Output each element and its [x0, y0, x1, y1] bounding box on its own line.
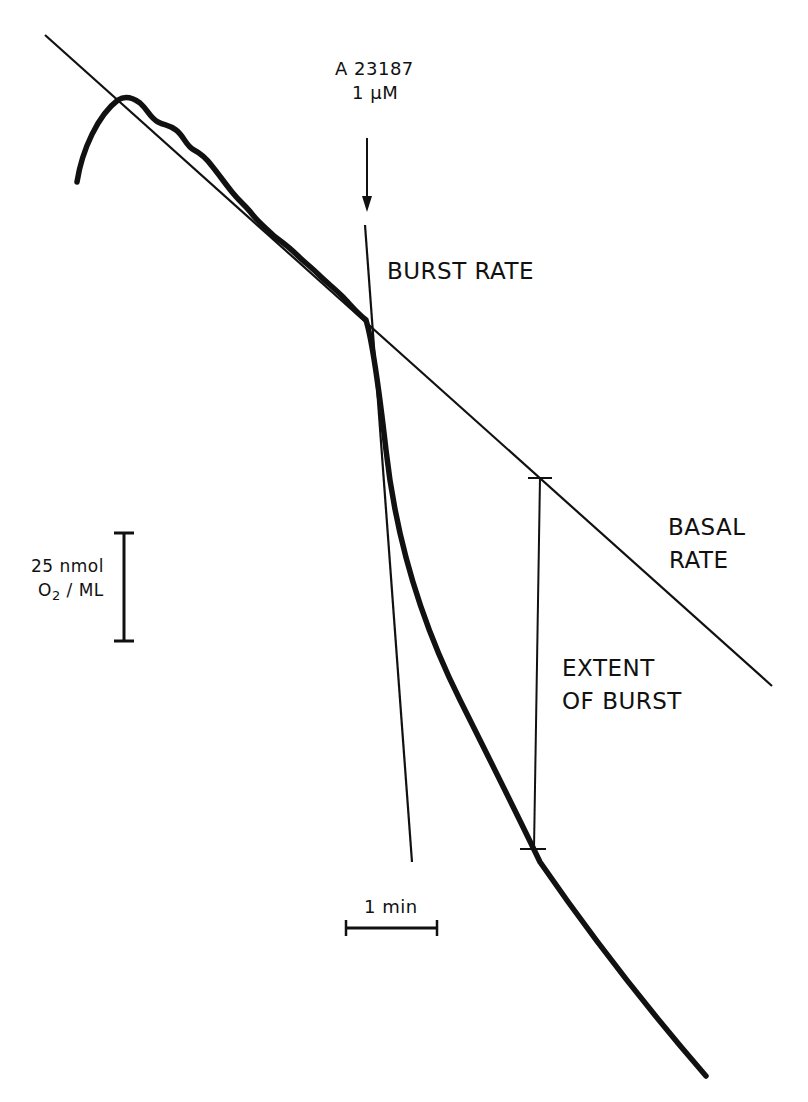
- basal-rate-line: [45, 35, 772, 686]
- o2-subscript: 2: [52, 588, 61, 603]
- extent-of-burst-label-line2: OF BURST: [562, 688, 682, 714]
- extent-bar-vertical: [534, 478, 540, 849]
- horizontal-scale-label: 1 min: [364, 896, 418, 917]
- extent-of-burst-label-line1: EXTENT: [562, 655, 655, 681]
- stimulus-concentration-label: 1 μM: [352, 82, 398, 103]
- per-ml-unit: / ML: [61, 580, 104, 600]
- basal-rate-label-line2: RATE: [669, 547, 729, 573]
- vertical-scale-label-line2: O2 / ML: [38, 580, 104, 603]
- o2-symbol: O: [38, 580, 52, 600]
- stimulus-agent-label: A 23187: [335, 58, 414, 79]
- basal-rate-label-line1: BASAL: [668, 514, 746, 540]
- stimulus-arrow-head: [362, 196, 372, 212]
- burst-rate-label: BURST RATE: [387, 258, 534, 284]
- vertical-scale-label-line1: 25 nmol: [31, 556, 104, 576]
- oxygen-trace-figure: A 23187 1 μM BURST RATE BASAL RATE EXTEN…: [0, 0, 808, 1102]
